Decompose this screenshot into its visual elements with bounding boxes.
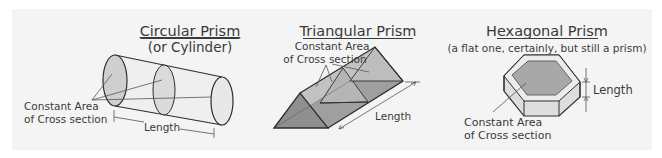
hexagonal-cross-section-label-1: Constant Area — [464, 116, 542, 129]
hexagonal-prism-figure: Hexagonal Prism (a flat one, certainly, … — [448, 23, 647, 142]
hexagonal-length-dimension — [582, 68, 590, 112]
triangular-prism-figure: Triangular Prism Constant Area of Cross — [274, 23, 420, 129]
triangular-prism-title: Triangular Prism — [299, 23, 417, 39]
circular-length-label: Length — [144, 121, 180, 133]
triangular-length-label: Length — [375, 110, 411, 122]
circular-prism-figure: Circular Prism (or Cylinder) Constant Ar… — [24, 23, 240, 138]
hexagonal-prism-title: Hexagonal Prism — [486, 23, 608, 39]
hexagonal-cross-section-label-2: of Cross section — [464, 129, 551, 142]
triangular-cross-section-label-1: Constant Area — [295, 40, 370, 52]
circular-prism-subtitle: (or Cylinder) — [148, 39, 233, 55]
hexagonal-prism-subtitle: (a flat one, certainly, but still a pris… — [448, 42, 647, 54]
triangular-cross-section-label-2: of Cross section — [283, 53, 366, 65]
hexagonal-length-label: Length — [593, 83, 633, 97]
circular-cross-section-label-2: of Cross section — [24, 113, 107, 125]
circular-prism-title: Circular Prism — [140, 23, 241, 39]
hexagonal-prism-shape — [504, 55, 580, 116]
cylinder-shape — [103, 55, 233, 125]
prism-diagram: Circular Prism (or Cylinder) Constant Ar… — [0, 0, 662, 158]
circular-cross-section-label-1: Constant Area — [24, 100, 99, 112]
